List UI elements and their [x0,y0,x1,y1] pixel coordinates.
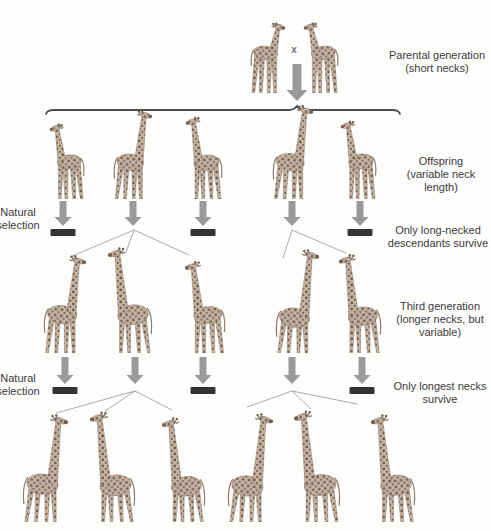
label-long-necked-survive: Only long-necked descendants survive [388,224,488,250]
descent-line [247,391,292,407]
giraffe-third-generation-2 [107,246,153,353]
selection-arrow-row2 [195,357,212,384]
giraffe-parents-2 [303,22,339,93]
selection-arrow-row1 [284,201,301,226]
label-line: Third generation [396,300,483,313]
giraffe-third-generation-3 [184,260,226,353]
giraffe-parents-1 [250,22,286,93]
giraffe-fourth-generation-1 [22,413,69,522]
selection-arrow-row1 [125,201,142,226]
giraffe-third-generation-4 [275,248,320,353]
label-line: selection [0,219,40,232]
death-bar [51,229,76,236]
giraffe-fourth-generation-3 [161,416,206,522]
death-bar [348,229,373,236]
giraffe-fourth-generation-2 [89,410,136,522]
giraffe-offspring-4 [272,104,314,199]
death-bar [350,387,375,394]
death-bar [191,229,216,236]
selection-arrow-row2 [284,357,301,384]
giraffe-offspring-5 [340,120,377,199]
label-longest-necks-survive: Only longest necks survive [394,380,487,406]
label-line: Offspring [407,155,475,168]
death-bar [191,387,216,394]
death-bar [53,387,78,394]
label-line: selection [0,385,40,398]
label-natural-selection-2: Natural selection [0,372,40,398]
descent-line [292,391,357,404]
descent-line [292,391,311,409]
label-line: Natural [0,206,40,219]
selection-arrow-row2 [57,357,74,384]
label-offspring: Offspring (variable neck length) [407,155,475,194]
selection-arrow-row1 [195,201,212,226]
diagram-stage: x Parental generation (short necks) Offs… [0,0,491,531]
giraffe-fourth-generation-5 [293,409,341,522]
giraffe-offspring-2 [113,109,153,199]
label-line: Parental generation [389,49,485,62]
label-line: (short necks) [389,62,485,75]
label-line: Natural [0,372,40,385]
cross-mark: x [291,43,297,56]
giraffe-fourth-generation-6 [370,413,416,522]
giraffe-third-generation-1 [43,254,87,353]
giraffe-offspring-1 [49,123,85,199]
label-line: (longer necks, but [396,313,483,326]
label-natural-selection-1: Natural selection [0,206,40,232]
label-line: length) [407,181,475,194]
label-line: descendants survive [388,237,488,250]
label-third-generation: Third generation (longer necks, but vari… [396,300,483,339]
selection-arrow-row1 [55,201,72,226]
label-line: Only long-necked [388,224,488,237]
label-line: (variable neck [407,168,475,181]
giraffe-fourth-generation-4 [227,412,274,522]
descent-line [135,391,172,410]
label-line: Only longest necks [394,380,487,393]
descent-line [105,391,135,411]
giraffe-offspring-3 [185,116,223,199]
label-line: survive [394,393,487,406]
offspring-brace [46,106,400,114]
selection-arrow-row2 [354,357,371,384]
label-line: variable) [396,326,483,339]
giraffe-third-generation-5 [338,253,382,353]
label-parental-generation: Parental generation (short necks) [389,49,485,75]
selection-arrow-row1 [352,201,369,226]
selection-arrow-row2 [127,357,144,384]
